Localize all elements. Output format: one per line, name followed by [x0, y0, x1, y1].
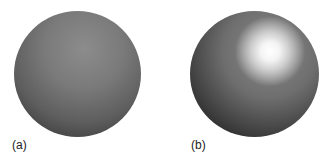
panel-label-a: (a): [12, 138, 27, 152]
matte-sphere-image: [14, 11, 141, 137]
glossy-sphere-image: [190, 11, 319, 137]
panel-label-b: (b): [191, 138, 206, 152]
